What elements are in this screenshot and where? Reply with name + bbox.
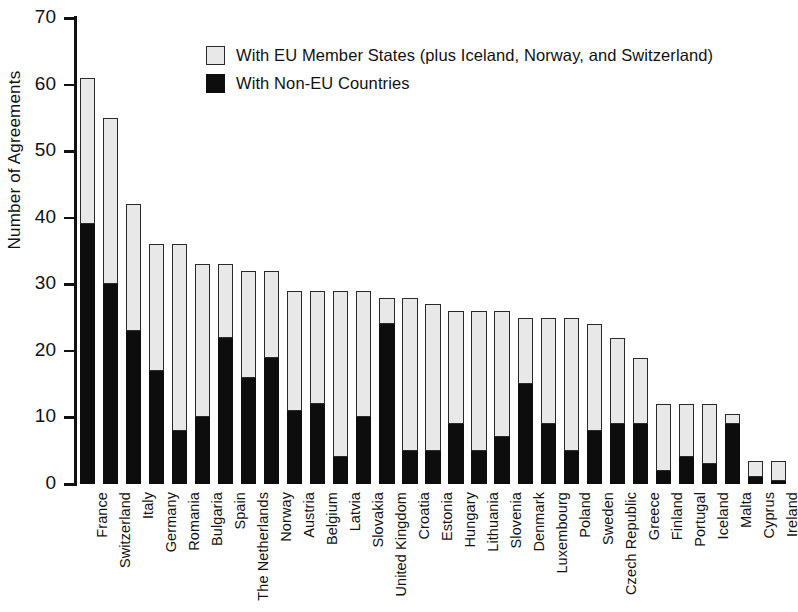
bar-sweden[interactable] [587, 324, 602, 484]
x-axis-label: Romania [186, 492, 202, 551]
x-axis-label: Croatia [416, 492, 432, 539]
x-axis-label: Norway [278, 492, 294, 542]
legend-item[interactable]: With Non-EU Countries [206, 70, 713, 96]
y-tick-mark [64, 350, 75, 353]
bar-segment-eu [471, 311, 486, 451]
bar-spain[interactable] [218, 264, 233, 484]
bar-austria[interactable] [287, 291, 302, 484]
bar-czech-republic[interactable] [610, 338, 625, 484]
bar-segment-non-eu [264, 358, 279, 484]
x-axis-label: Germany [163, 492, 179, 552]
bar-segment-eu [725, 414, 740, 424]
bar-united-kingdom[interactable] [379, 298, 394, 484]
bar-lithuania[interactable] [471, 311, 486, 484]
bar-estonia[interactable] [425, 304, 440, 484]
bar-segment-non-eu [702, 464, 717, 484]
bar-hungary[interactable] [448, 311, 463, 484]
bar-segment-eu [80, 78, 95, 224]
x-axis-label: Italy [140, 492, 156, 519]
bar-segment-eu [448, 311, 463, 424]
bar-the-netherlands[interactable] [241, 271, 256, 484]
bar-segment-non-eu [287, 411, 302, 484]
bar-segment-non-eu [425, 451, 440, 484]
y-tick-label: 10 [0, 406, 56, 425]
bar-segment-eu [425, 304, 440, 450]
y-tick-label: 20 [0, 340, 56, 359]
bar-segment-non-eu [587, 431, 602, 484]
bar-luxembourg[interactable] [541, 318, 556, 484]
bar-slovenia[interactable] [494, 311, 509, 484]
bar-segment-non-eu [218, 338, 233, 484]
bar-segment-non-eu [356, 417, 371, 484]
bar-segment-eu [333, 291, 348, 457]
x-axis-label: Slovenia [508, 492, 524, 548]
bar-segment-eu [748, 461, 763, 478]
bar-segment-non-eu [633, 424, 648, 484]
bar-segment-non-eu [195, 417, 210, 484]
bar-segment-non-eu [310, 404, 325, 484]
legend-item[interactable]: With EU Member States (plus Iceland, Nor… [206, 42, 713, 68]
bar-segment-eu [610, 338, 625, 425]
bar-segment-eu [679, 404, 694, 457]
bar-segment-eu [287, 291, 302, 411]
bar-france[interactable] [80, 78, 95, 484]
bar-croatia[interactable] [402, 298, 417, 484]
chart-legend: With EU Member States (plus Iceland, Nor… [206, 42, 713, 98]
bar-belgium[interactable] [310, 291, 325, 484]
x-axis-label: Iceland [715, 492, 731, 539]
bar-segment-eu [379, 298, 394, 325]
x-axis-label: Greece [646, 492, 662, 540]
bar-segment-non-eu [494, 437, 509, 484]
bar-switzerland[interactable] [103, 118, 118, 484]
x-axis-label: Slovakia [370, 492, 386, 548]
legend-swatch-non-eu-icon [206, 74, 225, 93]
x-axis-label: France [94, 492, 110, 538]
bar-segment-non-eu [518, 384, 533, 484]
bar-malta[interactable] [725, 414, 740, 484]
bar-norway[interactable] [264, 271, 279, 484]
y-tick-label: 0 [0, 473, 56, 492]
bar-bulgaria[interactable] [195, 264, 210, 484]
x-axis-label: Austria [301, 492, 317, 538]
bar-finland[interactable] [656, 404, 671, 484]
bar-poland[interactable] [564, 318, 579, 484]
x-axis-label: The Netherlands [255, 492, 271, 601]
bar-germany[interactable] [149, 244, 164, 484]
bar-segment-non-eu [333, 457, 348, 484]
bar-slovakia[interactable] [356, 291, 371, 484]
bar-segment-non-eu [564, 451, 579, 484]
bar-latvia[interactable] [333, 291, 348, 484]
x-axis-label: Czech Republic [623, 492, 639, 595]
bar-greece[interactable] [633, 358, 648, 484]
x-axis-label: Sweden [600, 492, 616, 545]
x-axis-label: Malta [738, 492, 754, 528]
x-axis-label: Lithuania [485, 492, 501, 552]
bar-denmark[interactable] [518, 318, 533, 484]
bar-ireland[interactable] [771, 461, 786, 484]
bar-italy[interactable] [126, 204, 141, 484]
y-tick-mark [64, 416, 75, 419]
bar-segment-non-eu [126, 331, 141, 484]
bar-segment-eu [310, 291, 325, 404]
bar-segment-eu [402, 298, 417, 451]
bar-segment-eu [771, 461, 786, 481]
y-tick-label: 30 [0, 273, 56, 292]
y-tick-label: 60 [0, 74, 56, 93]
y-tick-mark [64, 17, 75, 20]
legend-label: With Non-EU Countries [236, 74, 410, 93]
bar-iceland[interactable] [702, 404, 717, 484]
bar-segment-eu [172, 244, 187, 430]
bar-segment-non-eu [748, 477, 763, 484]
bar-segment-non-eu [725, 424, 740, 484]
y-tick-mark [64, 283, 75, 286]
bar-portugal[interactable] [679, 404, 694, 484]
bar-segment-non-eu [610, 424, 625, 484]
bar-segment-non-eu [771, 481, 786, 484]
bar-segment-non-eu [402, 451, 417, 484]
bar-romania[interactable] [172, 244, 187, 484]
bar-cyprus[interactable] [748, 461, 763, 484]
x-axis-label: Belgium [324, 492, 340, 545]
bar-segment-eu [218, 264, 233, 337]
bar-segment-eu [126, 204, 141, 330]
bar-segment-eu [633, 358, 648, 425]
